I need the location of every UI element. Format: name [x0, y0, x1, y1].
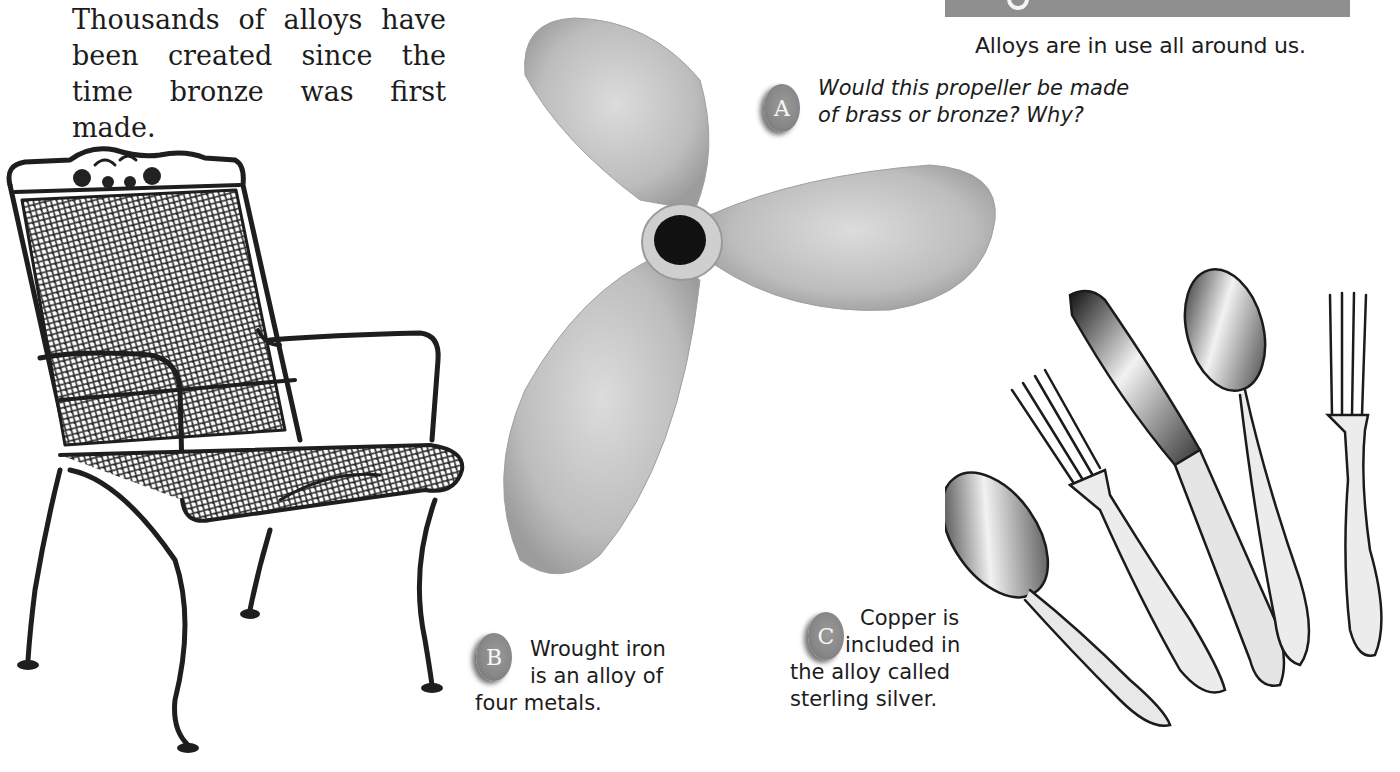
figure-heading-glyph: [1007, 0, 1029, 10]
intro-paragraph: Thousands of alloys have been created si…: [72, 2, 446, 146]
callout-a-text: Would this propeller be made of brass or…: [818, 75, 1129, 129]
sterling-silver-flatware-image: [945, 265, 1400, 730]
callout-a-line-1: Would this propeller be made: [818, 75, 1129, 102]
wrought-iron-chair-image: [0, 140, 480, 760]
figure-caption: Alloys are in use all around us.: [975, 33, 1306, 58]
figure-heading-banner: [945, 0, 1350, 17]
callout-b-line-2: is an alloy of: [475, 663, 666, 690]
callout-c-text: Copper is included in the alloy called s…: [790, 605, 960, 713]
callout-c-line-3: the alloy called: [790, 659, 960, 686]
callout-b-line-1: Wrought iron: [475, 636, 666, 663]
callout-a-badge: A: [764, 84, 800, 132]
callout-a-line-2: of brass or bronze? Why?: [818, 102, 1129, 129]
callout-c-line-1: Copper is: [790, 605, 960, 632]
callout-c-line-2: included in: [790, 632, 960, 659]
callout-c-line-4: sterling silver.: [790, 686, 960, 713]
callout-b-line-3: four metals.: [475, 690, 666, 717]
callout-b-text: Wrought iron is an alloy of four metals.: [475, 636, 666, 717]
